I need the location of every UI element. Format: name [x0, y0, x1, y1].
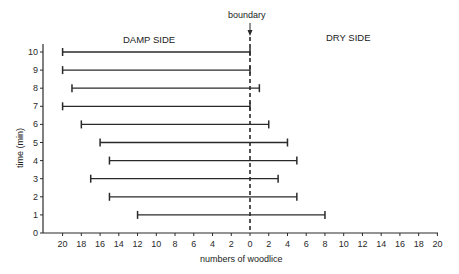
y-tick-label: 8 [33, 83, 38, 93]
y-tick-label: 10 [28, 47, 38, 57]
x-tick-label: 20 [432, 239, 442, 249]
x-tick-label: 14 [114, 239, 124, 249]
x-axis-title: numbers of woodlice [200, 254, 283, 264]
x-tick-label: 12 [133, 239, 143, 249]
plot-area: 0123456789102018161412108642024681012141… [0, 0, 459, 274]
y-tick-label: 2 [33, 192, 38, 202]
x-tick-label: 16 [395, 239, 405, 249]
x-tick-label: 8 [173, 239, 178, 249]
x-tick-label: 4 [210, 239, 215, 249]
y-tick-label: 0 [33, 228, 38, 238]
dry-side-label: DRY SIDE [326, 32, 371, 43]
x-tick-label: 8 [322, 239, 327, 249]
y-axis-title: time (min) [15, 128, 25, 168]
damp-side-label: DAMP SIDE [123, 34, 175, 45]
y-tick-label: 3 [33, 174, 38, 184]
y-tick-label: 4 [33, 156, 38, 166]
x-tick-label: 0 [247, 239, 252, 249]
y-tick-label: 5 [33, 138, 38, 148]
y-tick-label: 1 [33, 210, 38, 220]
x-tick-label: 6 [191, 239, 196, 249]
x-tick-label: 2 [229, 239, 234, 249]
y-tick-label: 9 [33, 65, 38, 75]
x-tick-label: 12 [357, 239, 367, 249]
y-tick-label: 7 [33, 101, 38, 111]
y-tick-label: 6 [33, 119, 38, 129]
x-tick-label: 4 [285, 239, 290, 249]
x-tick-label: 18 [76, 239, 86, 249]
x-tick-label: 2 [266, 239, 271, 249]
woodlice-choice-chart: 0123456789102018161412108642024681012141… [0, 0, 459, 274]
x-tick-label: 18 [414, 239, 424, 249]
x-tick-label: 16 [95, 239, 105, 249]
x-tick-label: 6 [304, 239, 309, 249]
x-tick-label: 20 [58, 239, 68, 249]
x-tick-label: 14 [376, 239, 386, 249]
x-tick-label: 10 [151, 239, 161, 249]
x-tick-label: 10 [339, 239, 349, 249]
boundary-label: boundary [228, 10, 266, 20]
